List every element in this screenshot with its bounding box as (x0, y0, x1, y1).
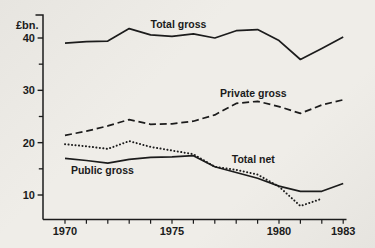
series-line-total-gross (65, 29, 343, 60)
series-label-total-gross: Total gross (151, 18, 207, 30)
y-axis-line (36, 15, 44, 220)
chart-canvas: 10203040£bn.1970197519801983 Total gross… (0, 0, 375, 248)
series-label-public-gross: Public gross (71, 164, 134, 176)
y-axis-unit-label: £bn. (16, 19, 39, 31)
x-tick-label: 1983 (331, 225, 355, 237)
scanned-page-background: 10203040£bn.1970197519801983 Total gross… (0, 0, 375, 248)
series-line-private-gross (65, 100, 343, 136)
y-tick-label: 30 (23, 84, 35, 96)
series-label-total-net: Total net (232, 153, 275, 165)
series-label-private-gross: Private gross (220, 87, 287, 99)
y-tick-label: 20 (23, 137, 35, 149)
x-tick-label: 1970 (53, 225, 77, 237)
axes-group: 10203040£bn.1970197519801983 (16, 15, 355, 237)
y-tick-label: 40 (23, 32, 35, 44)
y-tick-label: 10 (23, 189, 35, 201)
x-tick-label: 1980 (267, 225, 291, 237)
x-tick-label: 1975 (160, 225, 184, 237)
series-group (65, 29, 343, 206)
